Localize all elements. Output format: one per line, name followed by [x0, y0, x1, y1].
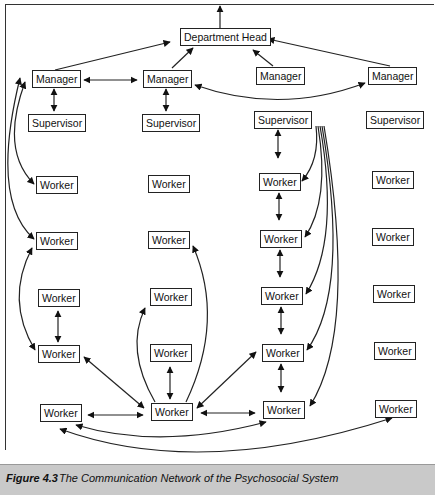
worker-node-r5c1: Worker [40, 404, 82, 422]
edge-m2-m4 [195, 83, 365, 100]
worker-node-r3c3: Worker [261, 287, 303, 305]
edge-s3-w1c3-curve [302, 126, 317, 181]
worker-node-r1c4: Worker [372, 171, 414, 189]
worker-node-r4c2: Worker [150, 344, 192, 362]
manager-node-4: Manager [368, 67, 417, 85]
edge-m4-dh [268, 39, 390, 66]
edge-w2c1-w4c1 [19, 248, 35, 350]
worker-node-r4c4: Worker [374, 342, 416, 360]
supervisor-node-1: Supervisor [28, 114, 86, 132]
edge-w5c1-w5c3 [76, 422, 266, 437]
figure-caption: Figure 4.3 The Communication Network of … [0, 464, 435, 495]
manager-node-2: Manager [143, 70, 192, 88]
edge-w5c2-w2c2 [186, 246, 207, 402]
worker-node-r3c2: Worker [150, 288, 192, 306]
edge-m1-w1c1 [14, 82, 34, 184]
worker-node-r5c4: Worker [375, 400, 417, 418]
department-head-node: Department Head [180, 28, 271, 46]
edge-s3-w5c3 [310, 126, 338, 406]
edge-w5c1-w5c4 [60, 418, 392, 452]
worker-node-r2c2: Worker [148, 231, 190, 249]
manager-node-3: Manager [256, 67, 305, 85]
edge-w4c1-w5c2 [84, 357, 144, 408]
edge-m3-dh [253, 50, 273, 66]
worker-node-r5c3: Worker [263, 401, 305, 419]
worker-node-r2c1: Worker [36, 232, 78, 250]
worker-node-r1c3: Worker [259, 173, 301, 191]
worker-node-r4c3: Worker [262, 344, 304, 362]
edge-w5c2-w4c3 [197, 352, 256, 408]
worker-node-r1c2: Worker [148, 175, 190, 193]
worker-node-r4c1: Worker [38, 345, 80, 363]
manager-node-1: Manager [32, 70, 81, 88]
figure-number: Figure 4.3 [6, 472, 58, 484]
edge-m2-dh [172, 48, 193, 68]
worker-node-r3c1: Worker [38, 289, 80, 307]
figure-title: The Communication Network of the Psychos… [59, 472, 338, 484]
edge-s3-w2c3 [305, 126, 322, 237]
worker-node-r2c4: Worker [372, 228, 414, 246]
worker-node-r5c2: Worker [151, 403, 193, 421]
edge-m1-dh [55, 42, 170, 70]
worker-node-r1c1: Worker [36, 176, 78, 194]
supervisor-node-2: Supervisor [142, 114, 200, 132]
edge-m1-w2c1 [8, 78, 34, 239]
supervisor-node-3: Supervisor [254, 111, 312, 129]
supervisor-node-4: Supervisor [366, 111, 424, 129]
worker-node-r3c4: Worker [373, 285, 415, 303]
worker-node-r2c3: Worker [260, 230, 302, 248]
